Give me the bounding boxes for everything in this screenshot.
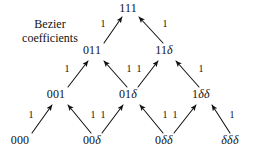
lattice-node: 0δδ <box>155 134 173 146</box>
lattice-edge <box>139 17 163 43</box>
lattice-node: 00δ <box>83 134 101 146</box>
edge-weight-label: 1 <box>163 110 168 120</box>
edge-weight-label: 1 <box>65 64 70 74</box>
lattice-edge <box>104 17 122 43</box>
lattice-edge <box>68 61 88 87</box>
edge-weight-label: 1 <box>91 110 96 120</box>
lattice-edge <box>104 61 127 87</box>
lattice-node: 000 <box>11 134 30 146</box>
edge-weight-label: 1 <box>101 19 106 29</box>
lattice-edge <box>68 105 91 133</box>
lattice-node: 011 <box>83 44 101 56</box>
lattice-node: 01δ <box>119 88 137 100</box>
edge-weight-label: 1 <box>173 110 178 120</box>
lattice-edge <box>176 61 199 87</box>
lattice-node: 111 <box>119 2 137 14</box>
lattice-node: 11δ <box>155 44 173 56</box>
edge-weight-label: 1 <box>199 64 204 74</box>
lattice-edges <box>0 0 260 155</box>
edge-weight-label: 1 <box>230 110 235 120</box>
edge-weight-label: 1 <box>137 64 142 74</box>
bezier-coefficients-diagram: Bezier coefficients 11101111δ00101δ1δδ00… <box>0 0 260 155</box>
lattice-edge <box>140 105 163 133</box>
edge-weight-label: 1 <box>127 64 132 74</box>
lattice-edge <box>212 105 230 133</box>
lattice-node: 001 <box>47 88 66 100</box>
edge-weight-label: 1 <box>29 110 34 120</box>
lattice-node: δδδ <box>221 134 238 146</box>
lattice-edge <box>32 105 52 133</box>
edge-line-group <box>32 17 230 133</box>
edge-weight-label: 1 <box>163 19 168 29</box>
edge-weight-label: 1 <box>101 110 106 120</box>
lattice-node: 1δδ <box>192 88 210 100</box>
